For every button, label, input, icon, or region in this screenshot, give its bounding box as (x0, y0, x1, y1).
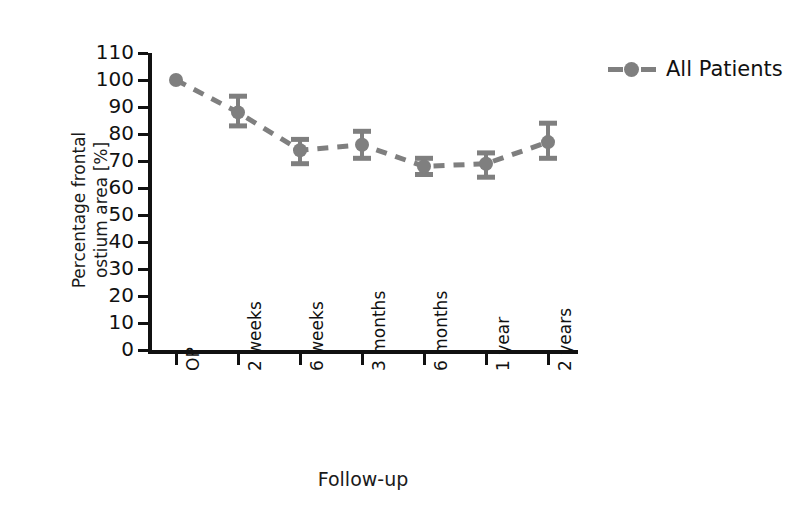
x-tick-mark (361, 354, 364, 365)
y-axis-title-line-1: Percentage frontal (68, 60, 90, 360)
data-point-marker (479, 157, 493, 171)
y-tick-mark (138, 295, 148, 298)
data-point-marker (355, 138, 369, 152)
data-point-marker (541, 135, 555, 149)
legend-line-right (641, 67, 656, 72)
chart-figure: Percentage frontal ostium area [%] 01020… (0, 0, 786, 505)
y-tick-label: 40 (88, 230, 134, 252)
plot-area: 0102030405060708090100110 OP2 weeks6 wee… (148, 53, 578, 350)
data-point-marker (417, 159, 431, 173)
y-tick-mark (138, 106, 148, 109)
x-tick-mark (299, 354, 302, 365)
y-tick-label: 20 (88, 284, 134, 306)
y-tick-mark (138, 214, 148, 217)
y-tick-mark (138, 79, 148, 82)
y-tick-mark (138, 268, 148, 271)
x-tick-mark (547, 354, 550, 365)
y-tick-label: 30 (88, 257, 134, 279)
y-tick-mark (138, 241, 148, 244)
y-tick-label: 110 (88, 41, 134, 63)
y-tick-label: 10 (88, 311, 134, 333)
y-tick-mark (138, 349, 148, 352)
x-tick-mark (423, 354, 426, 365)
y-tick-label: 50 (88, 203, 134, 225)
legend-marker-icon (608, 58, 656, 80)
data-point-marker (169, 73, 183, 87)
y-tick-mark (138, 322, 148, 325)
y-tick-label: 0 (88, 338, 134, 360)
data-point-marker (231, 105, 245, 119)
y-tick-label: 70 (88, 149, 134, 171)
y-tick-mark (138, 133, 148, 136)
data-point-marker (293, 143, 307, 157)
y-tick-mark (138, 52, 148, 55)
legend-label: All Patients (666, 57, 783, 81)
y-tick-label: 100 (88, 68, 134, 90)
x-axis-title: Follow-up (148, 468, 578, 490)
legend-dot-icon (624, 62, 639, 77)
x-tick-mark (175, 354, 178, 365)
y-tick-label: 60 (88, 176, 134, 198)
legend-line-left (608, 67, 623, 72)
y-tick-mark (138, 187, 148, 190)
y-tick-label: 90 (88, 95, 134, 117)
chart-legend: All Patients (608, 57, 783, 81)
y-tick-label: 80 (88, 122, 134, 144)
x-tick-mark (485, 354, 488, 365)
y-tick-mark (138, 160, 148, 163)
x-tick-mark (237, 354, 240, 365)
series-graphics (148, 53, 578, 354)
